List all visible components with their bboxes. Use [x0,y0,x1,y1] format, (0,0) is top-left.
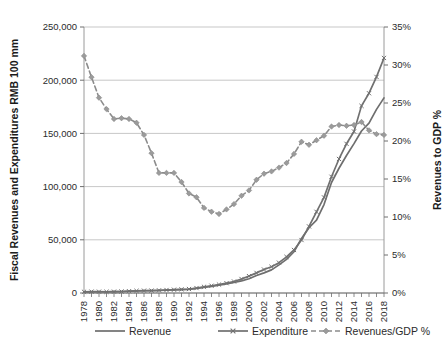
x-axis-tick-label: 1986 [138,301,149,322]
x-axis-tick-label: 1984 [123,301,134,322]
x-axis-tick-label: 2012 [333,301,344,322]
x-axis-tick-label: 2010 [318,301,329,322]
right-axis-tick-label: 0% [392,287,406,298]
left-axis-title: Fiscal Revenues and Expenditures RMB 100… [8,39,20,281]
right-axis-title: Revenues to GDP % [431,109,443,210]
x-axis-tick-label: 2014 [348,301,359,322]
x-axis-tick-label: 1998 [228,301,239,322]
chart-container: 050,000100,000150,000200,000250,000 0%5%… [0,0,448,349]
x-axis-tick-label: 1980 [93,301,104,322]
chart-legend: RevenueExpenditureRevenues/GDP % [95,325,430,337]
legend-label: Revenue [129,325,171,337]
x-axis-tick-label: 2008 [303,301,314,322]
x-axis-tick-label: 2018 [378,301,389,322]
right-axis-tick-label: 10% [392,211,412,222]
x-axis-tick-label: 2002 [258,301,269,322]
right-axis-tick-label: 35% [392,21,412,32]
legend-label: Expenditure [252,325,308,337]
right-axis-tick-label: 20% [392,135,412,146]
left-axis-tick-label: 0 [72,287,77,298]
x-axis-tick-label: 2016 [363,301,374,322]
x-axis-tick-label: 1990 [168,301,179,322]
left-axis-tick-label: 250,000 [43,21,77,32]
left-axis-tick-label: 100,000 [43,181,77,192]
x-axis-tick-label: 1978 [78,301,89,322]
right-axis-tick-label: 5% [392,249,406,260]
x-axis-tick-label: 1982 [108,301,119,322]
x-axis-tick-label: 1988 [153,301,164,322]
x-axis-tick-label: 1994 [198,301,209,322]
left-axis-tick-label: 200,000 [43,75,77,86]
fiscal-revenue-expenditure-chart: 050,000100,000150,000200,000250,000 0%5%… [0,0,448,349]
left-axis-tick-label: 50,000 [48,234,77,245]
legend-label: Revenues/GDP % [345,325,430,337]
right-axis-tick-label: 25% [392,97,412,108]
plot-background [0,0,448,349]
right-axis-tick-label: 15% [392,173,412,184]
x-axis-tick-label: 2000 [243,301,254,322]
x-axis-tick-label: 2004 [273,301,284,322]
x-axis-tick-label: 1996 [213,301,224,322]
right-axis-tick-label: 30% [392,59,412,70]
x-axis-tick-label: 2006 [288,301,299,322]
left-axis-tick-label: 150,000 [43,128,77,139]
x-axis-tick-label: 1992 [183,301,194,322]
